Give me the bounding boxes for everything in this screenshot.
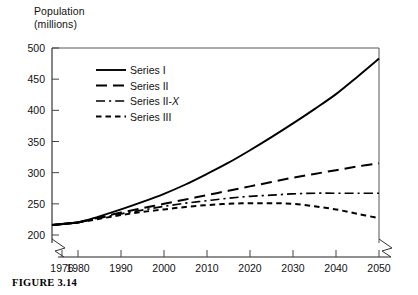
population-projection-chart: 200250300350400450500 197619801990200020… <box>0 0 418 275</box>
x-tick-label: 1980 <box>66 262 90 274</box>
series-line <box>78 59 379 223</box>
y-tick-label: 450 <box>27 73 45 85</box>
y-tick-label: 200 <box>27 229 45 241</box>
x-tick-label: 1990 <box>109 262 133 274</box>
x-tick-label: 2000 <box>152 262 176 274</box>
y-tick-label: 400 <box>27 104 45 116</box>
series-lines <box>52 59 379 225</box>
x-tick-label: 2020 <box>238 262 262 274</box>
y-tick-label: 300 <box>27 167 45 179</box>
figure-container: Population (millions) 200250300350400450… <box>0 0 418 295</box>
x-tick-label: 2050 <box>367 262 391 274</box>
y-tick-label: 500 <box>27 42 45 54</box>
plot-frame <box>52 48 391 257</box>
chart-legend: Series ISeries IISeries II-XSeries III <box>96 64 180 123</box>
x-tick-label: 2030 <box>281 262 305 274</box>
legend-label: Series II-X <box>130 95 180 107</box>
y-tick-label: 250 <box>27 198 45 210</box>
x-tick-label: 2040 <box>324 262 348 274</box>
series-line-historical <box>52 223 78 226</box>
legend-label: Series III <box>130 111 171 123</box>
legend-label: Series I <box>130 64 166 76</box>
y-tick-label: 350 <box>27 136 45 148</box>
y-axis-ticks: 200250300350400450500 <box>27 42 59 241</box>
x-tick-label: 2010 <box>195 262 219 274</box>
x-axis-ticks: 197619801990200020102020203020402050 <box>50 250 391 274</box>
legend-label: Series II <box>130 80 169 92</box>
figure-caption: FIGURE 3.14 <box>12 277 77 288</box>
y-axis-title: Population (millions) <box>34 5 85 31</box>
axis-break-marks <box>52 239 392 257</box>
